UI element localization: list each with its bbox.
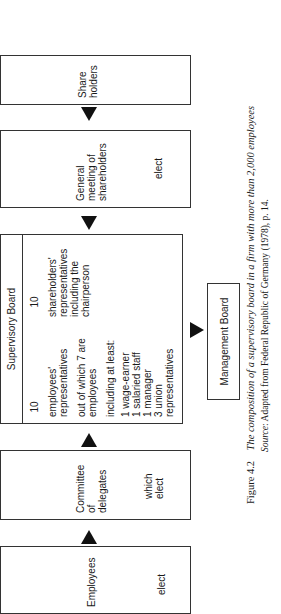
management-board-title: Management Board xyxy=(219,284,230,399)
general-meeting-box: General meeting of shareholders elect xyxy=(0,130,191,208)
arrow-general-meeting-to-supervisory xyxy=(81,216,97,230)
employee-rep-label-line: representatives xyxy=(58,349,69,417)
employees-elect: elect xyxy=(156,574,167,595)
committee-box: Committee of delegates which elect xyxy=(0,450,191,520)
including-item: representatives xyxy=(164,322,175,417)
supervisory-board-header: Supervisory Board xyxy=(1,235,23,423)
shareholders-title: Share holders xyxy=(77,65,99,98)
committee-sub-line: elect xyxy=(154,473,165,499)
including-item: 1 manager xyxy=(142,322,153,417)
source-line: Source: Adapted from Federal Republic of… xyxy=(259,0,272,452)
including-item: 3 union xyxy=(153,322,164,417)
source-label: Source xyxy=(260,426,270,452)
committee-which-elect: which elect xyxy=(143,473,165,499)
shareholder-rep-label-line: including the xyxy=(69,261,80,317)
general-meeting-title-line: shareholders xyxy=(97,143,108,201)
committee-title-line: delegates xyxy=(97,465,108,513)
committee-title: Committee of delegates xyxy=(75,465,108,513)
shareholder-rep-label: shareholders' representatives including … xyxy=(47,235,91,317)
including-item: 1 wage-earner xyxy=(120,322,131,417)
committee-sub-line: which xyxy=(143,473,154,499)
arrow-shareholders-to-general-meeting xyxy=(81,107,97,121)
employee-rep-note-line: employees xyxy=(87,369,98,417)
management-board-box: Management Board xyxy=(207,283,240,400)
general-meeting-title-line: General xyxy=(75,143,86,201)
shareholder-rep-label-line: representatives xyxy=(58,249,69,317)
shareholders-box: Share holders xyxy=(0,55,191,105)
committee-title-line: of xyxy=(86,465,97,513)
employee-rep-count: 10 xyxy=(29,397,40,417)
arrow-employees-to-committee xyxy=(81,530,97,544)
general-meeting-title: General meeting of shareholders xyxy=(75,143,108,201)
employee-rep-note: out of which 7 are employees xyxy=(76,322,98,417)
shareholder-rep-label-line: shareholders' xyxy=(47,257,58,317)
arrow-supervisory-to-management xyxy=(190,322,204,338)
source-text: : Adapted from Federal Republic of Germa… xyxy=(260,199,270,426)
including-item: 1 salaried staff xyxy=(131,322,142,417)
employee-rep-note-line: out of which 7 are xyxy=(76,338,87,417)
shareholders-title-line: holders xyxy=(88,65,99,98)
arrow-committee-to-supervisory xyxy=(81,433,97,447)
including-label: including at least: xyxy=(105,322,116,417)
including-list: 1 wage-earner 1 salaried staff 1 manager… xyxy=(120,322,175,417)
shareholder-representatives-column: 10 shareholders' representatives includi… xyxy=(29,235,98,317)
shareholders-title-line: Share xyxy=(77,65,88,98)
committee-title-line: Committee xyxy=(75,465,86,513)
employee-rep-label: employees' representatives xyxy=(47,322,69,417)
figure-label: Figure 4.2 xyxy=(245,461,256,504)
figure-title: The composition of a supervisory board i… xyxy=(245,106,256,451)
general-meeting-title-line: meeting of xyxy=(86,143,97,201)
figure-caption: Figure 4.2 The composition of a supervis… xyxy=(244,0,257,610)
supervisory-board-box: Supervisory Board 10 employees' represen… xyxy=(0,234,183,424)
employee-rep-label-line: employees' xyxy=(47,367,58,417)
employees-box: Employees elect xyxy=(0,546,191,614)
shareholder-rep-count: 10 xyxy=(29,287,40,317)
employees-title: Employees xyxy=(86,558,97,607)
employee-representatives-column: 10 employees' representatives out of whi… xyxy=(29,322,175,417)
general-meeting-elect: elect xyxy=(153,158,164,179)
shareholder-rep-label-line: chairperson xyxy=(80,265,91,317)
